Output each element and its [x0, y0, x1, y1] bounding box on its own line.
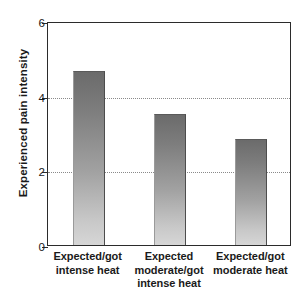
bar: [73, 71, 105, 245]
x-axis-category-line: intense heat: [47, 264, 128, 278]
x-axis-category-label: Expectedmoderate/gotintense heat: [128, 250, 209, 291]
x-axis-category-line: intense heat: [128, 277, 209, 291]
bar: [235, 139, 267, 245]
x-axis-labels: Expected/gotintense heatExpectedmoderate…: [47, 250, 291, 296]
y-axis-title: Experienced pain intensity: [14, 0, 32, 246]
bar: [154, 114, 186, 245]
y-tick-label: 0: [39, 239, 45, 255]
y-tick-label: 6: [39, 15, 45, 31]
y-tick-label: 4: [39, 90, 45, 106]
plot-area: 0246: [47, 22, 291, 246]
x-axis-category-line: Expected/got: [210, 250, 291, 264]
y-tick-label: 2: [39, 164, 45, 180]
x-axis-category-line: Expected: [128, 250, 209, 264]
x-axis-category-line: Expected/got: [47, 250, 128, 264]
x-axis-category-label: Expected/gotmoderate heat: [210, 250, 291, 277]
plot-inner: 0246: [48, 23, 290, 245]
x-axis-category-label: Expected/gotintense heat: [47, 250, 128, 277]
x-axis-category-line: moderate heat: [210, 264, 291, 278]
x-axis-category-line: moderate/got: [128, 264, 209, 278]
bar-chart: Experienced pain intensity 0246 Expected…: [0, 0, 305, 297]
